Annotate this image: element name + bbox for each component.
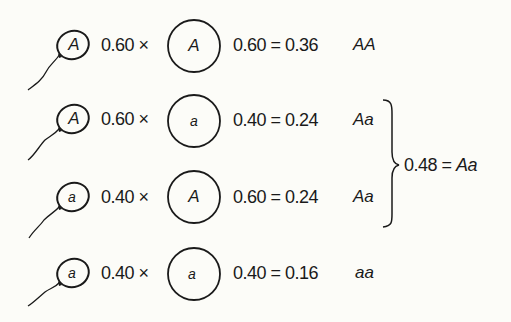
sperm-allele: A xyxy=(64,35,84,55)
egg-frequency-product: 0.60 = 0.24 xyxy=(233,187,318,207)
egg-allele: a xyxy=(184,111,204,131)
egg-frequency-product: 0.40 = 0.16 xyxy=(233,263,318,283)
egg-frequency-product: 0.60 = 0.36 xyxy=(233,35,318,55)
sum-genotype: Aa xyxy=(456,155,477,175)
cross-row-4: a 0.40 × a 0.40 = 0.16 aa xyxy=(0,263,511,322)
sum-equals: = xyxy=(442,155,452,175)
genotype: Aa xyxy=(353,187,374,207)
cross-row-3: a 0.40 × A 0.60 = 0.24 Aa xyxy=(0,187,511,247)
egg-allele: A xyxy=(184,187,204,207)
sperm-frequency: 0.60 × xyxy=(101,35,149,55)
sperm-allele: a xyxy=(62,187,82,207)
genotype: AA xyxy=(353,35,376,55)
sperm-frequency: 0.40 × xyxy=(101,187,149,207)
genotype: Aa xyxy=(353,110,374,130)
sperm-allele: A xyxy=(64,109,84,129)
egg-allele: a xyxy=(182,264,202,284)
heterozygote-sum: 0.48 = Aa xyxy=(404,155,477,175)
egg-allele: A xyxy=(184,36,204,56)
egg-frequency-product: 0.40 = 0.24 xyxy=(233,110,318,130)
cross-row-1: A 0.60 × A 0.60 = 0.36 AA xyxy=(0,35,511,95)
sperm-frequency: 0.60 × xyxy=(101,109,149,129)
sperm-frequency: 0.40 × xyxy=(101,263,149,283)
sum-value: 0.48 xyxy=(404,155,437,175)
sperm-allele: a xyxy=(62,263,82,283)
genotype: aa xyxy=(355,263,374,283)
